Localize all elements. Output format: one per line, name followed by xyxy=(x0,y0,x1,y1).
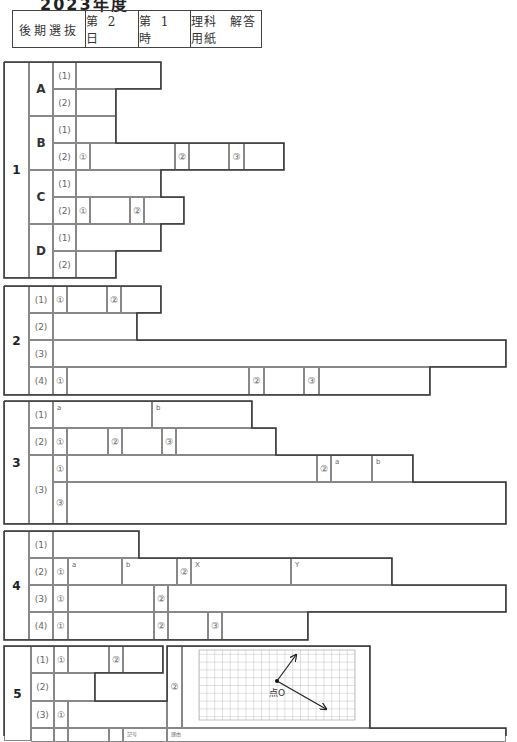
q1-b2-2-answer[interactable] xyxy=(189,143,229,170)
q2-4-c1: ① xyxy=(53,367,67,395)
q2-1-c2: ② xyxy=(107,286,121,313)
q4-1-label: (1) xyxy=(29,531,53,558)
q1-b2-c2: ② xyxy=(175,143,189,170)
q3-1-a-answer[interactable]: a xyxy=(53,401,152,428)
q5-4-reason-answer[interactable]: 理由 xyxy=(167,728,506,742)
q1-b2-label: (2) xyxy=(53,143,76,170)
q4-4-label: (4) xyxy=(29,612,53,640)
q1-c1-label: (1) xyxy=(53,170,76,197)
q5-1-2-answer[interactable] xyxy=(123,646,163,673)
q1-b1-answer[interactable] xyxy=(76,116,116,143)
q3-3-label: (3) xyxy=(29,455,53,524)
q5-1-c1: ① xyxy=(54,646,68,673)
q3-3-2a-answer[interactable]: a xyxy=(331,455,372,482)
q5-3-label: (3) xyxy=(31,701,54,728)
q4-2-1b-answer[interactable]: b xyxy=(122,558,177,585)
q2-3-answer[interactable] xyxy=(53,340,506,367)
header-period: 第 1 時 xyxy=(139,10,191,48)
q4-4-1-answer[interactable] xyxy=(68,612,154,640)
q4-2-c2: ② xyxy=(177,558,191,585)
section-2-label: 2 xyxy=(4,286,29,395)
q3-3-c2: ② xyxy=(317,455,331,482)
q3-2-c2: ② xyxy=(108,428,122,455)
q3-2-3-answer[interactable] xyxy=(176,428,276,455)
q4-4-c1: ① xyxy=(53,612,68,640)
q5-4-c2 xyxy=(109,728,123,742)
q1-c2-c2: ② xyxy=(130,197,144,224)
q4-2-label: (2) xyxy=(29,558,53,585)
q1-d1-label: (1) xyxy=(53,224,76,251)
q4-4-3-answer[interactable] xyxy=(222,612,308,640)
header-selection: 後期選抜 xyxy=(12,10,86,48)
q5-3-1-answer[interactable] xyxy=(68,701,167,728)
q1-a2-label: (2) xyxy=(53,89,76,116)
q4-3-c1: ① xyxy=(53,585,68,612)
q1-b2-c3: ③ xyxy=(229,143,244,170)
q4-4-c3: ③ xyxy=(208,612,222,640)
q5-1-label: (1) xyxy=(31,646,54,673)
q1-d2-answer[interactable] xyxy=(76,251,116,278)
q1-a1-answer[interactable] xyxy=(76,62,161,89)
q3-3-2b-answer[interactable]: b xyxy=(372,455,413,482)
q4-3-c2: ② xyxy=(154,585,168,612)
section-5-label: 5 xyxy=(4,646,31,741)
q2-4-3-answer[interactable] xyxy=(319,367,430,395)
q1-c2-2-answer[interactable] xyxy=(144,197,184,224)
q1-c2-c1: ① xyxy=(76,197,90,224)
q1-b2-1-answer[interactable] xyxy=(90,143,175,170)
point-o-dot xyxy=(275,679,279,683)
q1-c1-answer[interactable] xyxy=(76,170,161,197)
group-d-label: D xyxy=(29,224,53,278)
q3-3-3-answer[interactable] xyxy=(67,482,506,524)
q4-1-answer[interactable] xyxy=(53,531,139,558)
q4-2-1a-answer[interactable]: a xyxy=(68,558,122,585)
q1-a2-answer[interactable] xyxy=(76,89,116,116)
q2-1-2-answer[interactable] xyxy=(121,286,161,313)
q4-2-2y-answer[interactable]: Y xyxy=(291,558,392,585)
q5-1-c2: ② xyxy=(109,646,123,673)
q4-2-2x-answer[interactable]: X xyxy=(191,558,291,585)
q3-3-c1: ① xyxy=(53,455,67,482)
q2-1-1-answer[interactable] xyxy=(67,286,107,313)
q4-3-label: (3) xyxy=(29,585,53,612)
group-b-label: B xyxy=(29,116,53,170)
q5-4-symbol-answer[interactable]: 記号 xyxy=(123,728,167,742)
q4-4-2-answer[interactable] xyxy=(168,612,208,640)
q5-3-2-drawing-area[interactable]: 点O xyxy=(182,646,370,728)
q1-d2-label: (2) xyxy=(53,251,76,278)
q3-2-label: (2) xyxy=(29,428,53,455)
q1-b2-3-answer[interactable] xyxy=(244,143,284,170)
q5-3-c2: ② xyxy=(167,646,182,728)
q4-3-1-answer[interactable] xyxy=(68,585,154,612)
q2-1-label: (1) xyxy=(29,286,53,313)
header-subject: 理科 解答用紙 xyxy=(191,10,262,48)
q1-c2-1-answer[interactable] xyxy=(90,197,130,224)
q3-3-1-answer[interactable] xyxy=(67,455,317,482)
q2-4-2-answer[interactable] xyxy=(264,367,304,395)
q4-2-c1: ① xyxy=(53,558,68,585)
q2-4-c3: ③ xyxy=(304,367,319,395)
q5-4-1-answer[interactable] xyxy=(68,728,109,742)
q3-1-b-answer[interactable]: b xyxy=(152,401,252,428)
q3-2-c3: ③ xyxy=(162,428,176,455)
q3-2-2-answer[interactable] xyxy=(122,428,162,455)
q1-a1-label: (1) xyxy=(53,62,76,89)
q2-3-label: (3) xyxy=(29,340,53,367)
q5-1-1-answer[interactable] xyxy=(68,646,109,673)
q1-c2-label: (2) xyxy=(53,197,76,224)
group-a-label: A xyxy=(29,62,53,116)
q2-4-1-answer[interactable] xyxy=(67,367,249,395)
q5-4-c1 xyxy=(54,728,68,742)
q2-4-label: (4) xyxy=(29,367,53,395)
q2-2-answer[interactable] xyxy=(53,313,137,340)
q3-2-1-answer[interactable] xyxy=(67,428,108,455)
q3-1-label: (1) xyxy=(29,401,53,428)
section-3-label: 3 xyxy=(4,401,29,524)
q5-2-label: (2) xyxy=(31,673,54,701)
q5-2-answer[interactable] xyxy=(54,673,95,701)
q5-4-label xyxy=(31,728,54,742)
q1-d1-answer[interactable] xyxy=(76,224,161,251)
q2-4-c2: ② xyxy=(249,367,264,395)
point-o-label: 点O xyxy=(269,686,285,699)
q4-3-2-answer[interactable] xyxy=(168,585,506,612)
